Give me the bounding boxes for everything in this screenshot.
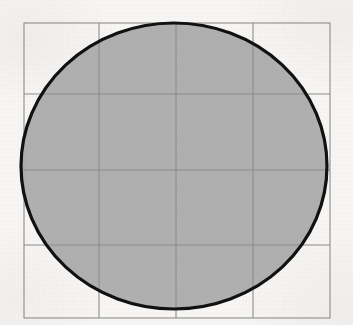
figure-canvas: Circle inscribed in a square with a 4 by… (0, 0, 353, 325)
geometry-diagram-svg (0, 0, 353, 325)
